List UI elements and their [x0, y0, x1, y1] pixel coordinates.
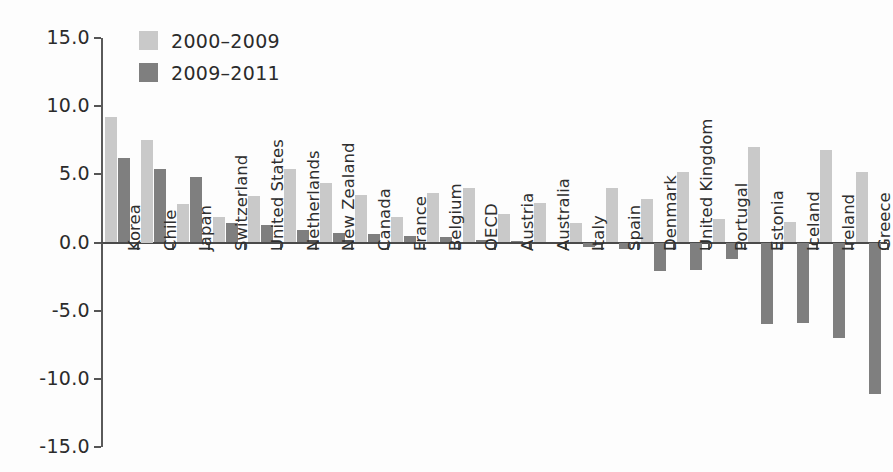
legend-label: 2009–2011 — [171, 62, 280, 84]
bar-series2 — [833, 243, 845, 338]
chart-legend: 2000–2009 2009–2011 — [139, 30, 280, 94]
x-axis-label: Austria — [518, 192, 537, 250]
x-axis-label: Canada — [375, 188, 394, 251]
x-axis-label: Iceland — [804, 191, 823, 251]
x-axis-label: Portugal — [732, 182, 751, 250]
x-axis-label: Ireland — [839, 193, 858, 250]
y-axis-tick-label: 10.0 — [14, 94, 90, 116]
y-axis-tick — [94, 37, 101, 39]
y-axis-tick — [94, 242, 101, 244]
y-axis-tick-label: -10.0 — [14, 367, 90, 389]
bar-chart: 15.010.05.00.0-5.0-10.0-15.0 KoreaChileJ… — [0, 0, 893, 472]
x-axis-label: Italy — [589, 215, 608, 251]
y-axis-tick — [94, 105, 101, 107]
y-axis-tick-label: -5.0 — [14, 299, 90, 321]
y-axis-tick-label: 15.0 — [14, 26, 90, 48]
y-axis-tick-label: 0.0 — [14, 231, 90, 253]
x-axis-label: Greece — [875, 192, 893, 251]
x-axis-label: Denmark — [661, 175, 680, 251]
x-axis-label: Chile — [161, 209, 180, 250]
x-axis-label: France — [411, 196, 430, 251]
bar-series2 — [761, 243, 773, 325]
legend-item: 2000–2009 — [139, 30, 280, 51]
x-axis-label: United States — [268, 139, 287, 251]
bar-series2 — [797, 243, 809, 323]
x-axis-label: Estonia — [768, 190, 787, 251]
legend-item: 2009–2011 — [139, 62, 280, 83]
legend-label: 2000–2009 — [171, 30, 280, 52]
y-axis-tick — [94, 378, 101, 380]
x-axis-label: United Kingdom — [697, 118, 716, 250]
legend-swatch-icon — [139, 31, 158, 50]
x-axis-label: New Zealand — [339, 142, 358, 250]
y-axis-tick — [94, 310, 101, 312]
bar-series2 — [869, 243, 881, 394]
legend-swatch-icon — [139, 63, 158, 82]
x-axis-label: Switzerland — [232, 154, 251, 250]
x-axis-label: Belgium — [446, 183, 465, 251]
x-axis-label: Korea — [125, 204, 144, 251]
y-axis-tick — [94, 446, 101, 448]
bar-series1 — [105, 117, 117, 242]
x-axis-label: OECD — [482, 203, 501, 251]
x-axis-label: Spain — [625, 204, 644, 250]
x-axis-label: Netherlands — [304, 150, 323, 251]
y-axis-tick-label: -15.0 — [14, 435, 90, 457]
y-axis-tick-label: 5.0 — [14, 162, 90, 184]
y-axis-tick — [94, 173, 101, 175]
x-axis-label: Japan — [196, 204, 215, 250]
x-axis-label: Australia — [554, 178, 573, 251]
